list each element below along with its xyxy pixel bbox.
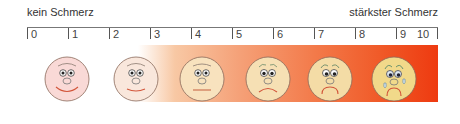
face-no-pain-icon [45, 57, 89, 101]
face-worst-pain-icon [372, 57, 416, 101]
face-severe-pain-icon [308, 57, 352, 101]
face-strong-pain-icon [246, 57, 290, 101]
face-moderate-pain-icon [180, 57, 224, 101]
faces-row [0, 0, 460, 124]
face-mild-pain-icon [114, 57, 158, 101]
